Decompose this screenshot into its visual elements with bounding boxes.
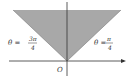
label-pi-over-4: θ = π 4 <box>94 35 113 51</box>
polar-region-diagram: θ = 3π 4 θ = π 4 O <box>0 0 126 81</box>
svg-text:θ =: θ = <box>94 39 106 47</box>
svg-text:θ =: θ = <box>8 39 20 47</box>
origin-label: O <box>57 66 63 74</box>
svg-text:4: 4 <box>30 44 35 51</box>
label-3pi-over-4: θ = 3π 4 <box>8 35 38 51</box>
svg-text:π: π <box>106 35 112 42</box>
svg-text:4: 4 <box>107 44 112 51</box>
svg-text:3π: 3π <box>29 35 38 42</box>
x-axis-arrow-icon <box>121 59 126 63</box>
